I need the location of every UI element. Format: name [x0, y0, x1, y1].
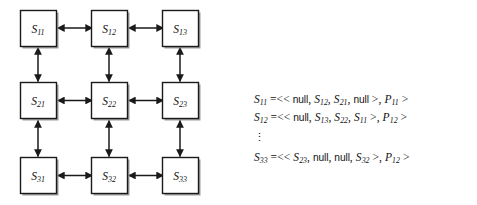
equation-line-last: S33 =<< S23, null, null, S32 >, P12 > — [254, 150, 472, 168]
node-S33[interactable]: S33 — [163, 158, 201, 196]
eq4-neighbor-3: S32 — [356, 151, 370, 163]
eq4-relation: =<< — [271, 151, 291, 163]
equation-line-1: S11 =<< null, S12, S21, null >, P11 > — [254, 92, 472, 110]
equation-vertical-ellipsis: ⋮ — [254, 127, 472, 150]
node-S32[interactable]: S32 — [92, 158, 130, 196]
node-S12[interactable]: S12 — [92, 11, 130, 49]
eq2-neighbor-0: null — [293, 112, 308, 123]
node-S23-sub: 23 — [179, 100, 187, 109]
eq1-neighbor-1: S12 — [314, 93, 328, 105]
node-S21-sub: 21 — [37, 100, 45, 109]
equation-line-2: S12 =<< null, S13, S22, S11 >, P12 > — [254, 110, 472, 128]
eq4-neighbor-0: S23 — [293, 151, 307, 163]
eq2-close-inner: > — [370, 111, 377, 123]
eq2-neighbor-2: S22 — [334, 111, 348, 123]
eq4-neighbor-1: null — [313, 152, 328, 163]
eq2-neighbor-1: S13 — [315, 111, 329, 123]
node-S23[interactable]: S23 — [163, 83, 201, 121]
eq1-neighbor-0: null — [293, 94, 308, 105]
node-S13-sub: 13 — [179, 28, 187, 37]
eq4-neighbor-2: null — [334, 152, 349, 163]
eq2-payload: P12 — [383, 111, 398, 123]
node-S13[interactable]: S13 — [163, 11, 201, 49]
node-S22[interactable]: S22 — [92, 83, 130, 121]
eq1-neighbor-2: S21 — [334, 93, 348, 105]
node-S21[interactable]: S21 — [21, 83, 59, 121]
node-S22-sub: 22 — [108, 100, 116, 109]
node-S11-sub: 11 — [37, 28, 44, 37]
nodes-layer: S11 S12 S13 — [21, 11, 201, 196]
vertical-ellipsis-icon: ⋮ — [254, 133, 265, 141]
eq4-payload: P12 — [385, 151, 400, 163]
equation-block: S11 =<< null, S12, S21, null >, P11 > S1… — [254, 92, 472, 168]
node-S31[interactable]: S31 — [21, 158, 59, 196]
node-S11[interactable]: S11 — [21, 11, 59, 49]
eq1-payload: P11 — [384, 93, 398, 105]
node-S12-sub: 12 — [108, 28, 116, 37]
eq4-lhs: S33 — [254, 151, 268, 163]
node-S32-sub: 32 — [107, 175, 116, 184]
node-S33-sub: 33 — [178, 175, 187, 184]
node-S31-sub: 31 — [36, 175, 45, 184]
grid-diagram: S11 S12 S13 — [0, 0, 240, 205]
figure-root: S11 S12 S13 — [0, 0, 477, 205]
eq2-close-outer: > — [401, 111, 408, 123]
eq1-close-outer: > — [402, 93, 409, 105]
eq2-relation: =<< — [271, 111, 291, 123]
eq1-relation: =<< — [270, 93, 290, 105]
grid-diagram-canvas: S11 S12 S13 — [0, 0, 240, 205]
eq2-lhs: S12 — [254, 111, 268, 123]
eq1-lhs: S11 — [254, 93, 267, 105]
eq2-neighbor-3: S11 — [354, 111, 367, 123]
eq4-close-outer: > — [403, 151, 410, 163]
eq1-neighbor-3: null — [353, 94, 368, 105]
